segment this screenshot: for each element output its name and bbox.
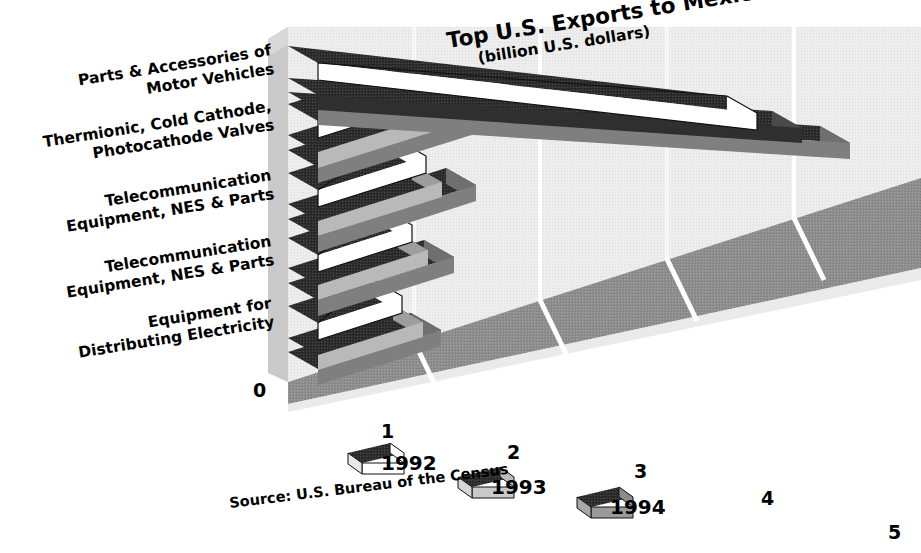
axis-tick-4: 4 [761,487,774,509]
category-labels: Parts & Accessories of Motor Vehicles Th… [42,41,276,362]
exports-3d-bar-chart: Parts & Accessories of Motor Vehicles Th… [0,0,921,553]
axis-tick-3: 3 [634,460,647,482]
axis-tick-2: 2 [507,441,520,463]
legend-label-1993: 1993 [491,475,547,499]
axis-tick-5: 5 [888,521,901,543]
axis-tick-1: 1 [381,420,394,442]
legend-label-1994: 1994 [610,495,666,519]
axis-tick-0: 0 [253,379,266,401]
chart-canvas: Parts & Accessories of Motor Vehicles Th… [0,0,921,553]
